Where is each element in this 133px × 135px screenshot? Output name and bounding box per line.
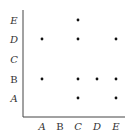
data-points xyxy=(41,19,118,100)
data-point xyxy=(77,38,80,41)
data-point xyxy=(41,38,44,41)
data-point xyxy=(115,97,118,100)
dot-plot-chart: ABCDE ABCDE xyxy=(0,0,133,135)
data-point xyxy=(77,78,80,81)
x-tick-label: B xyxy=(56,121,63,132)
x-tick-label: A xyxy=(37,121,45,132)
x-tick-label: E xyxy=(111,121,120,132)
y-tick-label: B xyxy=(10,74,17,85)
y-tick-labels: ABCDE xyxy=(9,15,18,104)
x-tick-labels: ABCDE xyxy=(37,121,120,132)
axes xyxy=(23,10,125,117)
y-tick-label: C xyxy=(10,54,18,65)
x-tick-label: D xyxy=(92,121,101,132)
data-point xyxy=(115,38,118,41)
x-tick-label: C xyxy=(74,121,82,132)
y-tick-label: A xyxy=(9,93,17,104)
data-point xyxy=(41,78,44,81)
data-point xyxy=(77,19,80,22)
y-tick-label: D xyxy=(9,34,18,45)
data-point xyxy=(115,78,118,81)
y-tick-label: E xyxy=(9,15,18,26)
data-point xyxy=(96,78,99,81)
data-point xyxy=(77,97,80,100)
